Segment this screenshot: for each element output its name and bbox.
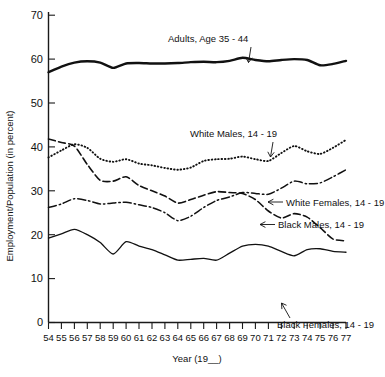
y-ticks-group: 0 10 20 30 40 50 60 70 [31, 9, 55, 328]
x-tick-label: 67 [211, 332, 222, 343]
series-line-adults [49, 58, 347, 72]
white-males-leader-arrow [268, 142, 274, 157]
employment-population-line-chart: 0 10 20 30 40 50 60 70 [0, 0, 385, 377]
adults-annotation: Adults, Age 35 - 44 [168, 33, 248, 44]
white-females-leader-arrow [268, 199, 283, 205]
y-tick-label: 0 [37, 316, 43, 328]
y-tick-label: 40 [31, 141, 43, 153]
x-tick-label: 77 [341, 332, 352, 343]
annotations-group: Adults, Age 35 - 44 White Males, 14 - 19… [168, 33, 384, 330]
x-tick-label: 66 [198, 332, 209, 343]
white-males-annotation: White Males, 14 - 19 [190, 128, 277, 139]
annotation-leaders-group [246, 47, 290, 318]
x-tick-label: 70 [250, 332, 261, 343]
chart-svg: 0 10 20 30 40 50 60 70 [0, 0, 385, 377]
series-line-white-males [49, 140, 347, 170]
y-tick-label: 50 [31, 97, 43, 109]
x-tick-label: 75 [315, 332, 326, 343]
y-tick-label: 70 [31, 9, 43, 21]
x-tick-label: 54 [43, 332, 54, 343]
series-line-black-females [49, 229, 347, 260]
y-tick-label: 10 [31, 272, 43, 284]
x-tick-label: 68 [224, 332, 235, 343]
x-tick-label: 56 [69, 332, 80, 343]
x-tick-label: 60 [121, 332, 132, 343]
y-tick-label: 60 [31, 53, 43, 65]
y-axis-title: Employment/Population (in percent) [4, 110, 15, 261]
x-tick-label: 55 [56, 332, 67, 343]
x-axis-title: Year (19__) [172, 353, 221, 364]
white-females-annotation: White Females, 14 - 19 [286, 197, 384, 208]
x-tick-label: 57 [82, 332, 93, 343]
x-tick-label: 73 [289, 332, 300, 343]
black-males-leader-arrow [260, 222, 275, 228]
series-line-white-females [49, 170, 347, 221]
x-tick-label: 61 [134, 332, 145, 343]
x-tick-label: 71 [263, 332, 274, 343]
x-tick-label: 69 [237, 332, 248, 343]
x-tick-label: 65 [186, 332, 197, 343]
x-tick-label: 76 [328, 332, 339, 343]
black-females-leader-arrow [282, 303, 291, 318]
x-tick-label: 58 [95, 332, 106, 343]
x-tick-label: 72 [276, 332, 287, 343]
y-tick-label: 30 [31, 185, 43, 197]
black-females-annotation: Black Females, 14 - 19 [277, 319, 374, 330]
x-tick-label: 62 [147, 332, 158, 343]
x-tick-label: 59 [108, 332, 119, 343]
y-tick-label: 20 [31, 229, 43, 241]
x-tick-label: 74 [302, 332, 313, 343]
black-males-annotation: Black Males, 14 - 19 [278, 219, 364, 230]
x-tick-label: 64 [173, 332, 184, 343]
x-tick-label: 63 [160, 332, 171, 343]
